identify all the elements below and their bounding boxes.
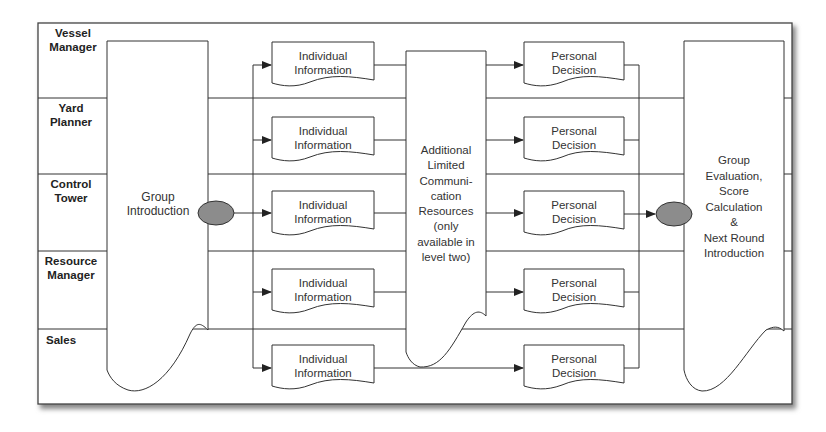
communication-label: Additional Limited Communi- cation Resou…	[406, 143, 486, 265]
lane-label-yard-planner: Yard Planner	[38, 101, 104, 129]
decision-label-vessel: Personal Decision	[524, 49, 624, 77]
info-label-control: Individual Information	[272, 198, 374, 226]
lane-label-control-tower: Control Tower	[38, 177, 104, 205]
info-label-resource: Individual Information	[272, 276, 374, 304]
decision-label-resource: Personal Decision	[524, 276, 624, 304]
decision-label-sales: Personal Decision	[524, 352, 624, 380]
lane-label-vessel-manager: Vessel Manager	[40, 26, 106, 54]
lane-label-sales: Sales	[34, 333, 112, 347]
lane-label-resource-manager: Resource Manager	[38, 254, 104, 282]
group-eval-label: Group Evaluation, Score Calculation & Ne…	[684, 153, 784, 262]
decision-label-yard: Personal Decision	[524, 124, 624, 152]
info-label-yard: Individual Information	[272, 124, 374, 152]
info-label-sales: Individual Information	[272, 352, 374, 380]
group-intro-label: Group Introduction	[110, 190, 206, 218]
decision-label-control: Personal Decision	[524, 198, 624, 226]
info-label-vessel: Individual Information	[272, 49, 374, 77]
